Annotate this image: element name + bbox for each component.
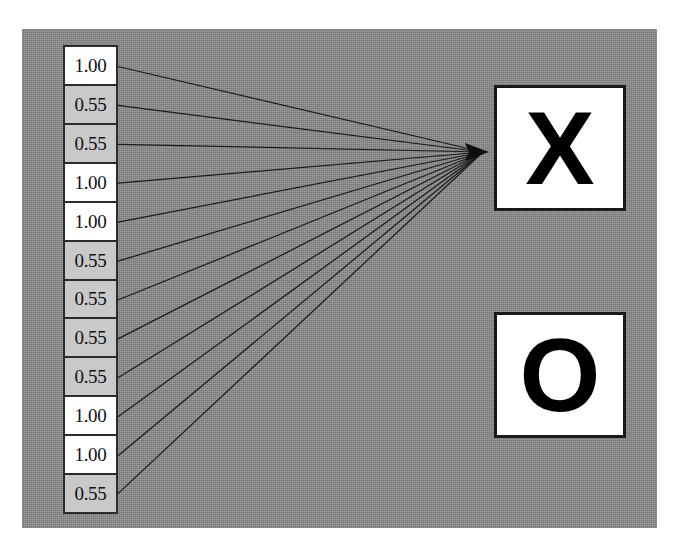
feature-cell[interactable]: 1.00 (65, 397, 116, 436)
feature-vector-column: 1.00 0.55 0.55 1.00 1.00 0.55 0.55 0.55 … (63, 45, 118, 514)
feature-cell[interactable]: 0.55 (65, 242, 116, 281)
feature-cell[interactable]: 0.55 (65, 475, 116, 512)
class-label-o: O (520, 323, 601, 427)
feature-cell[interactable]: 1.00 (65, 436, 116, 475)
feature-cell[interactable]: 1.00 (65, 203, 116, 242)
feature-cell[interactable]: 0.55 (65, 281, 116, 320)
feature-cell[interactable]: 0.55 (65, 86, 116, 125)
feature-cell[interactable]: 1.00 (65, 47, 116, 86)
figure-root: 1.00 0.55 0.55 1.00 1.00 0.55 0.55 0.55 … (0, 0, 678, 546)
feature-cell[interactable]: 0.55 (65, 125, 116, 164)
class-box-x[interactable]: X (494, 85, 626, 211)
feature-cell[interactable]: 0.55 (65, 358, 116, 397)
feature-cell[interactable]: 1.00 (65, 164, 116, 203)
class-box-o[interactable]: O (494, 312, 626, 438)
feature-cell[interactable]: 0.55 (65, 319, 116, 358)
class-label-x: X (525, 96, 594, 200)
